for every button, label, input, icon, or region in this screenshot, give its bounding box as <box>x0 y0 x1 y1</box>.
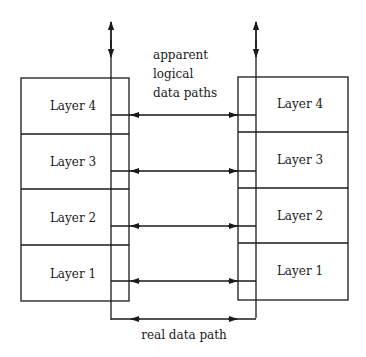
real-data-path-label: real data path <box>141 328 227 342</box>
left-layer-2-label: Layer 2 <box>50 211 96 225</box>
diagram-canvas: Layer 4 Layer 3 Layer 2 Layer 1 Layer 4 … <box>0 0 366 357</box>
logical-label-line2: logical <box>153 67 193 81</box>
left-layer-3-label: Layer 3 <box>50 155 96 169</box>
right-layer-1-label: Layer 1 <box>277 264 323 278</box>
left-layer-1-label: Layer 1 <box>50 267 96 281</box>
logical-label-line3: data paths <box>153 86 217 100</box>
logical-paths <box>111 115 256 281</box>
right-layer-2-label: Layer 2 <box>277 209 323 223</box>
right-stack: Layer 4 Layer 3 Layer 2 Layer 1 <box>238 22 348 318</box>
logical-label-line1: apparent <box>153 48 208 62</box>
right-layer-4-label: Layer 4 <box>277 97 324 111</box>
left-layer-4-label: Layer 4 <box>50 99 97 113</box>
right-layer-3-label: Layer 3 <box>277 153 323 167</box>
